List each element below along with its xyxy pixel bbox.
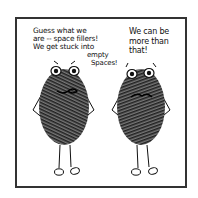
comic-drawing	[0, 0, 198, 198]
fingerprint-body	[39, 69, 89, 145]
fingerprint-body	[117, 69, 165, 145]
right-character	[112, 63, 170, 175]
left-character	[33, 61, 94, 175]
